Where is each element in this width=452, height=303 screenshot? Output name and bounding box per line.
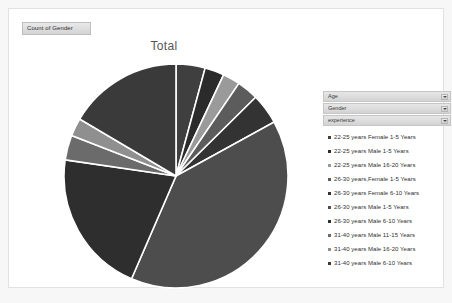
legend-label: 26-30 years Male 1-5 Years — [334, 204, 409, 210]
legend-label: 22-25 years Female 1-5 Years — [334, 134, 416, 140]
chevron-down-icon[interactable] — [441, 118, 448, 124]
legend-item[interactable]: 31-40 years Male 6-10 Years — [323, 256, 451, 270]
legend-swatch — [328, 248, 331, 251]
legend-swatch — [328, 178, 331, 181]
legend-list: 22-25 years Female 1-5 Years22-25 years … — [323, 130, 451, 270]
chart-title: Total — [9, 39, 319, 53]
legend-swatch — [328, 234, 331, 237]
legend-label: 31-40 years Male 11-15 Years — [334, 232, 415, 238]
legend-label: 22-25 years Male 1-5 Years — [334, 148, 409, 154]
legend-swatch — [328, 220, 331, 223]
chevron-down-icon[interactable] — [441, 94, 448, 100]
legend-label: 31-40 years Male 6-10 Years — [334, 260, 412, 266]
legend-label: 26-30 years Male 6-10 Years — [334, 218, 412, 224]
legend-item[interactable]: 22-25 years Male 1-5 Years — [323, 144, 451, 158]
pie-chart — [59, 59, 293, 293]
legend-item[interactable]: 26-30 years Male 1-5 Years — [323, 200, 451, 214]
legend-swatch — [328, 136, 331, 139]
pie-slice-group — [64, 64, 288, 288]
legend-label: 26-30 years,Female 1-5 Years — [334, 176, 416, 182]
chevron-down-icon[interactable] — [441, 106, 448, 112]
screenshot-root: Count of Gender Total AgeGenderexperienc… — [0, 0, 452, 303]
legend-item[interactable]: 26-30 years Female 6-10 Years — [323, 186, 451, 200]
legend-item[interactable]: 26-30 years,Female 1-5 Years — [323, 172, 451, 186]
legend-label: 22-25 years Male 16-20 Years — [334, 162, 415, 168]
count-of-gender-field-button[interactable]: Count of Gender — [22, 22, 91, 35]
slicer-label: Gender — [328, 105, 346, 111]
slicer-list: AgeGenderexperience — [323, 91, 451, 126]
legend-item[interactable]: 22-25 years Female 1-5 Years — [323, 130, 451, 144]
legend-item[interactable]: 22-25 years Male 16-20 Years — [323, 158, 451, 172]
report-panel: Count of Gender Total AgeGenderexperienc… — [8, 8, 444, 288]
legend-swatch — [328, 206, 331, 209]
legend-swatch — [328, 164, 331, 167]
legend-swatch — [328, 262, 331, 265]
slicer-experience[interactable]: experience — [323, 115, 451, 126]
pie-chart-svg — [59, 59, 293, 293]
legend-swatch — [328, 192, 331, 195]
legend-label: 31-40 years Male 16-20 Years — [334, 246, 415, 252]
slicer-gender[interactable]: Gender — [323, 103, 451, 114]
legend-item[interactable]: 31-40 years Male 16-20 Years — [323, 242, 451, 256]
slicer-label: experience — [328, 117, 355, 123]
legend-label: 26-30 years Female 6-10 Years — [334, 190, 419, 196]
legend-swatch — [328, 150, 331, 153]
legend-panel: AgeGenderexperience 22-25 years Female 1… — [323, 91, 451, 270]
legend-item[interactable]: 31-40 years Male 11-15 Years — [323, 228, 451, 242]
slicer-age[interactable]: Age — [323, 91, 451, 102]
slicer-label: Age — [328, 93, 338, 99]
legend-item[interactable]: 26-30 years Male 6-10 Years — [323, 214, 451, 228]
